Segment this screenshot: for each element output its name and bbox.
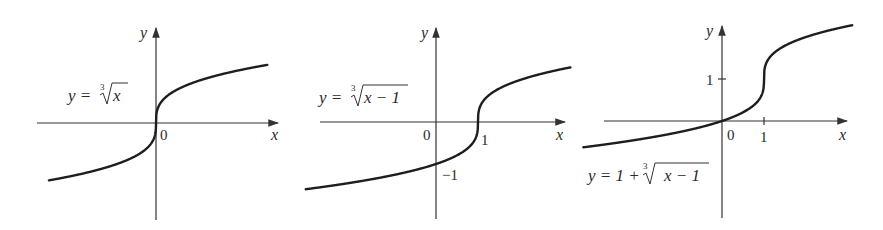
y-axis-label: y [704,22,714,40]
x-axis-label: x [555,126,563,143]
figure-canvas: y x 0 y = 3 x y x 0 1 −1 y = 3 x − 1 y [0,0,883,230]
equation-label: y = 1 + 3 x − 1 [586,161,709,185]
graph-shifted-cube-root: y x 0 1 −1 y = 3 x − 1 [306,24,571,219]
root-index: 3 [351,83,356,93]
x-tick-1-label: 1 [481,132,489,148]
svg-text:x: x [112,86,121,105]
curve-shifted-raised-cube-root [583,25,852,147]
x-tick-1-label: 1 [760,129,768,145]
svg-text:x − 1: x − 1 [363,88,400,107]
svg-text:y =: y = [66,86,91,105]
svg-text:x − 1: x − 1 [663,166,700,185]
origin-label: 0 [423,127,431,143]
y-tick-1-label: 1 [706,72,714,88]
y-axis-label: y [419,24,429,42]
y-intercept-label: −1 [442,167,458,183]
svg-text:y =: y = [317,88,342,107]
y-axis-label: y [138,24,148,42]
curve-shifted-cube-root [306,67,571,189]
x-axis-label: x [270,126,278,143]
root-index: 3 [100,82,105,92]
equation-label: y = 3 x − 1 [317,83,408,107]
root-index: 3 [643,161,648,171]
origin-label: 0 [727,127,735,143]
svg-text:y = 1 +: y = 1 + [586,166,640,185]
equation-label: y = 3 x [66,82,128,105]
origin-label: 0 [160,127,168,143]
graph-shifted-raised-cube-root: y x 0 1 1 y = 1 + 3 x − 1 [583,22,852,218]
graph-cube-root: y x 0 y = 3 x [37,24,278,220]
x-axis-label: x [838,126,846,143]
